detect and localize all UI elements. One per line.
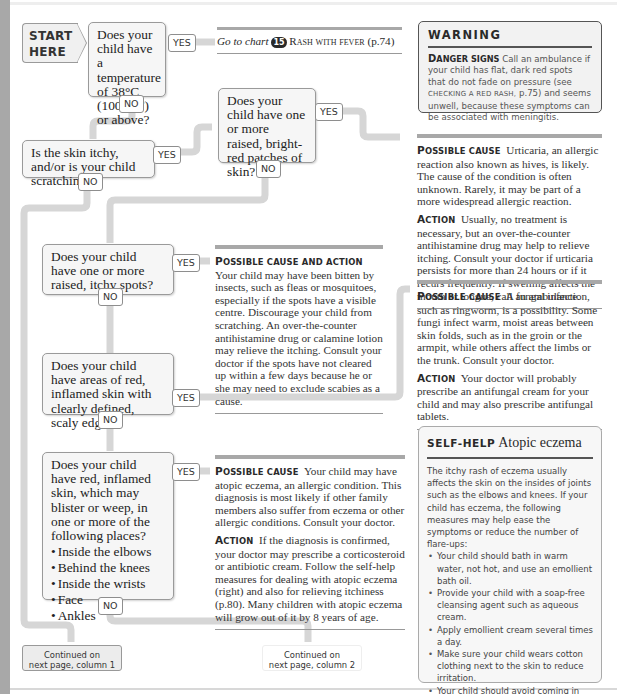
warning-link[interactable]: Checking a red rash, [428, 90, 516, 98]
page-edge-bar [0, 0, 10, 694]
chart-number-badge: 15 [271, 37, 286, 48]
answer-top-bar [417, 280, 602, 284]
question-text: Does your child have red, inflamed skin,… [51, 457, 151, 543]
possible-cause-label: POSSIBLE CAUSE [417, 292, 501, 302]
self-help-keyword: SELF-HELP [427, 437, 495, 449]
continued-column-1[interactable]: Continued on next page, column 1 [22, 645, 122, 671]
goto-prefix: Go to chart [217, 35, 269, 47]
place-item: Behind the knees [51, 560, 165, 576]
continued-line2: next page, column 2 [263, 660, 361, 670]
answer-top-bar [215, 455, 405, 459]
chart-title: Rash with fever [289, 35, 364, 47]
goto-top-bar [217, 27, 402, 30]
yes-tag[interactable]: YES [153, 146, 181, 164]
question-inflamed-skin: Does your child have red, inflamed skin,… [42, 452, 174, 600]
self-help-item: Apply emollient cream several times a da… [427, 624, 593, 648]
warning-rule [428, 46, 592, 48]
answer-fungal: POSSIBLE CAUSE A fungal infection, such … [417, 280, 602, 430]
warning-body: DANGER SIGNS Call an ambulance if your c… [428, 53, 592, 123]
action-label: ACTION [215, 536, 253, 546]
action-label: ACTION [417, 215, 455, 225]
continued-line1: Continued on [263, 650, 361, 660]
self-help-body: The itchy rash of eczema usually affects… [427, 465, 593, 694]
action-label: ACTION [417, 374, 455, 384]
answer-bottom-bar [215, 629, 405, 630]
self-help-rule [427, 457, 593, 459]
answer-eczema: POSSIBLE CAUSE Your child may have atopi… [215, 455, 405, 630]
place-item: Inside the elbows [51, 544, 165, 560]
question-temperature: Does your child have a temperature of 38… [88, 22, 166, 97]
question-text: Does your child have one or more raised,… [51, 249, 153, 292]
warning-box: WARNING DANGER SIGNS Call an ambulance i… [418, 21, 602, 113]
possible-cause-and-action-label: POSSIBLE CAUSE AND ACTION [215, 257, 363, 267]
no-tag[interactable]: NO [119, 95, 144, 113]
cause-action-text: Your child may have been bitten by insec… [215, 269, 383, 407]
question-scaly-edges: Does your child have areas of red, infla… [42, 353, 174, 415]
question-bright-red-patches: Does your child have one or more raised,… [218, 88, 316, 163]
warning-title: WARNING [428, 28, 592, 42]
no-tag[interactable]: NO [256, 160, 281, 178]
possible-cause-label: POSSIBLE CAUSE [215, 467, 299, 477]
self-help-item: Provide your child with a soap-free clea… [427, 587, 593, 624]
self-help-item: Your child should avoid coming in contac… [427, 685, 593, 694]
yes-tag[interactable]: YES [172, 463, 200, 481]
start-line1: START [29, 28, 78, 44]
goto-bottom-bar [217, 53, 402, 54]
danger-signs-label: DANGER SIGNS [428, 54, 499, 64]
start-line2: HERE [29, 44, 78, 60]
action-text: If the diagnosis is confirmed, your doct… [215, 534, 405, 623]
goto-chart-link[interactable]: Go to chart 15 Rash with fever (p.74) [217, 27, 402, 54]
self-help-item: Your child should bath in warm water, no… [427, 550, 593, 587]
no-tag[interactable]: NO [78, 173, 103, 191]
continued-column-2[interactable]: Continued on next page, column 2 [262, 645, 362, 671]
self-help-heading: Atopic eczema [498, 435, 582, 450]
start-here-label: START HERE [22, 23, 78, 63]
answer-insect-bites: POSSIBLE CAUSE AND ACTION Your child may… [215, 245, 383, 414]
self-help-title: SELF-HELP Atopic eczema [427, 435, 593, 451]
place-item: Inside the wrists [51, 576, 165, 592]
self-help-intro: The itchy rash of eczema usually affects… [427, 465, 593, 550]
self-help-item: Make sure your child wears cotton clothi… [427, 648, 593, 685]
start-arrow-fill [77, 24, 86, 62]
self-help-box: SELF-HELP Atopic eczema The itchy rash o… [418, 426, 602, 683]
continued-line2: next page, column 1 [23, 660, 121, 670]
answer-top-bar [417, 134, 602, 138]
answer-bottom-bar [215, 413, 383, 414]
possible-cause-label: POSSIBLE CAUSE [417, 146, 501, 156]
yes-tag[interactable]: YES [172, 389, 200, 407]
no-tag[interactable]: NO [98, 411, 123, 429]
no-tag[interactable]: NO [98, 597, 123, 615]
continued-line1: Continued on [23, 650, 121, 660]
yes-tag[interactable]: YES [172, 254, 200, 272]
yes-tag[interactable]: YES [315, 103, 343, 121]
goto-line: Go to chart 15 Rash with fever (p.74) [217, 34, 402, 48]
no-tag[interactable]: NO [98, 288, 123, 306]
chart-page: (p.74) [367, 35, 394, 47]
answer-top-bar [215, 245, 383, 249]
top-rule [10, 2, 617, 5]
yes-tag[interactable]: YES [168, 34, 196, 52]
self-help-list: Your child should bath in warm water, no… [427, 550, 593, 694]
